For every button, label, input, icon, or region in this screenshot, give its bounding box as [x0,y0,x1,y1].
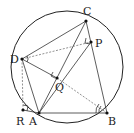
point-P [89,40,92,43]
segment-DR [22,59,23,110]
geometry-diagram: C P D Q R A B [0,0,134,133]
label-P: P [95,37,103,50]
point-Q [55,76,58,79]
point-C [84,19,87,22]
angle-arc-D [27,56,28,62]
point-A [37,111,40,114]
right-angle-mark-Q [51,72,55,78]
right-angle-mark-P [85,38,90,44]
label-B: B [108,115,116,128]
point-R [21,108,24,111]
label-D: D [10,53,19,66]
label-Q: Q [55,81,64,94]
segment-CB [86,21,107,113]
label-C: C [83,5,91,18]
label-R: R [16,115,25,128]
point-D [20,57,23,60]
label-A: A [28,115,38,128]
